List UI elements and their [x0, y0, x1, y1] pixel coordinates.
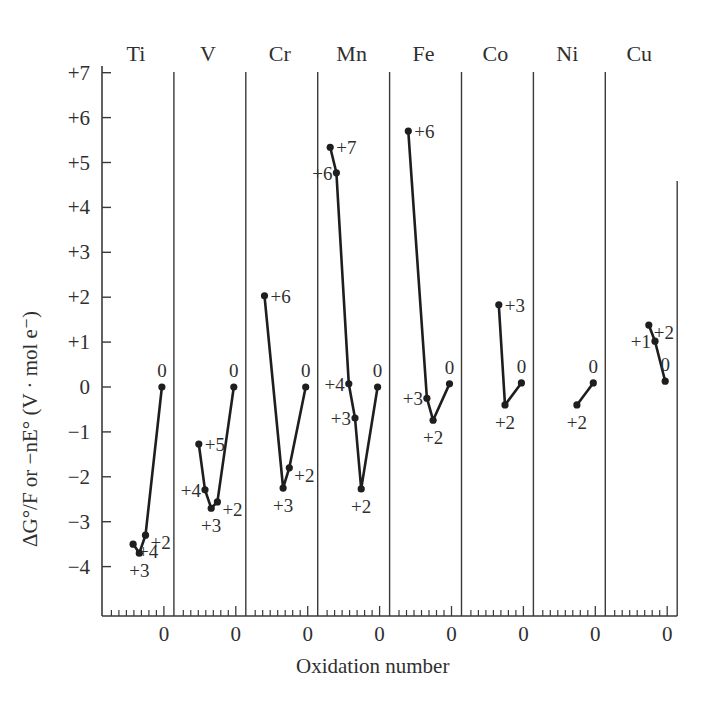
data-point — [158, 383, 165, 390]
y-tick-label: −1 — [68, 420, 90, 444]
data-point — [446, 380, 453, 387]
panel-cr: Cr0+6+3+20 — [255, 41, 318, 646]
point-label: 0 — [301, 360, 311, 381]
panel-v: V0+5+4+3+20 — [181, 41, 246, 646]
point-label: +2 — [222, 499, 242, 520]
data-point — [645, 321, 652, 328]
series-line — [133, 387, 162, 553]
point-label: +5 — [205, 434, 225, 455]
y-axis-ticks: +7+6+5+4+3+2+10−1−2−3−4 — [68, 61, 111, 579]
element-label: Ti — [127, 41, 146, 66]
point-label: +2 — [567, 412, 587, 433]
data-point — [333, 169, 340, 176]
point-label: +3 — [505, 295, 525, 316]
series-line — [577, 383, 593, 405]
point-label: +1 — [631, 331, 651, 352]
point-label: +6 — [414, 121, 434, 142]
data-point — [374, 383, 381, 390]
x-tick-label: 0 — [446, 622, 457, 646]
point-label: +3 — [403, 388, 423, 409]
point-label: 0 — [660, 354, 670, 375]
data-point — [201, 486, 208, 493]
panel-co: Co0+3+20 — [471, 41, 534, 646]
data-point — [423, 395, 430, 402]
point-label: 0 — [373, 360, 383, 381]
y-axis-label: ΔG°/F or −nE° (V · mol e⁻) — [18, 311, 43, 547]
point-label: +2 — [351, 496, 371, 517]
x-tick-label: 0 — [518, 622, 529, 646]
data-point — [208, 505, 215, 512]
data-point — [351, 414, 358, 421]
data-point — [501, 401, 508, 408]
point-label: +4 — [181, 480, 202, 501]
x-tick-label: 0 — [662, 622, 673, 646]
data-point — [662, 378, 669, 385]
point-label: 0 — [517, 356, 527, 377]
data-point — [590, 379, 597, 386]
point-label: +3 — [201, 515, 221, 536]
point-label: +6 — [312, 163, 332, 184]
element-label: Cu — [626, 41, 652, 66]
x-tick-label: 0 — [231, 622, 242, 646]
data-point — [261, 292, 268, 299]
element-label: V — [200, 41, 216, 66]
series-line — [499, 305, 522, 405]
series-line — [265, 296, 306, 488]
series-line — [408, 131, 449, 420]
point-label: +3 — [331, 408, 351, 429]
data-point — [405, 127, 412, 134]
data-point — [358, 485, 365, 492]
data-point — [495, 301, 502, 308]
panel-mn: Mn0+7+6+4+3+20 — [312, 41, 389, 646]
point-label: 0 — [589, 356, 599, 377]
element-label: Co — [483, 41, 509, 66]
data-point — [651, 338, 658, 345]
data-point — [142, 532, 149, 539]
panel-cu: Cu0+2+10 — [615, 41, 678, 646]
data-point — [230, 383, 237, 390]
y-tick-label: +4 — [68, 195, 91, 219]
data-point — [302, 383, 309, 390]
panel-ti: Ti0+4+3+20 — [111, 41, 173, 646]
element-panels: Ti0+4+3+20V0+5+4+3+20Cr0+6+3+20Mn0+7+6+4… — [111, 41, 677, 646]
point-label: +2 — [294, 465, 314, 486]
point-label: +3 — [129, 560, 149, 581]
data-point — [518, 379, 525, 386]
point-label: +2 — [495, 412, 515, 433]
panel-ni: Ni0+20 — [543, 41, 606, 646]
point-label: 0 — [229, 360, 239, 381]
data-point — [286, 464, 293, 471]
x-tick-label: 0 — [159, 622, 170, 646]
x-tick-label: 0 — [590, 622, 601, 646]
point-label: +3 — [273, 495, 293, 516]
x-tick-label: 0 — [302, 622, 313, 646]
data-point — [573, 401, 580, 408]
element-label: Mn — [336, 41, 367, 66]
frost-diagram: +7+6+5+4+3+2+10−1−2−3−4 Ti0+4+3+20V0+5+4… — [0, 0, 716, 701]
point-label: +2 — [151, 532, 171, 553]
data-point — [345, 380, 352, 387]
y-tick-label: −4 — [68, 555, 91, 579]
point-label: +6 — [271, 286, 291, 307]
data-point — [430, 417, 437, 424]
y-tick-label: +7 — [68, 61, 90, 85]
point-label: 0 — [445, 357, 455, 378]
y-tick-label: +5 — [68, 151, 90, 175]
y-tick-label: −2 — [68, 465, 90, 489]
y-tick-label: −3 — [68, 510, 90, 534]
data-point — [136, 550, 143, 557]
y-tick-label: +3 — [68, 240, 90, 264]
point-label: +2 — [423, 427, 443, 448]
point-label: +7 — [336, 137, 356, 158]
data-point — [327, 144, 334, 151]
x-tick-label: 0 — [374, 622, 385, 646]
data-point — [214, 498, 221, 505]
element-label: Fe — [413, 41, 435, 66]
data-point — [130, 541, 137, 548]
y-tick-label: +2 — [68, 285, 90, 309]
panel-fe: Fe0+6+3+20 — [399, 41, 462, 646]
element-label: Ni — [556, 41, 578, 66]
y-tick-label: +1 — [68, 330, 90, 354]
y-tick-label: +6 — [68, 106, 90, 130]
element-label: Cr — [269, 41, 292, 66]
